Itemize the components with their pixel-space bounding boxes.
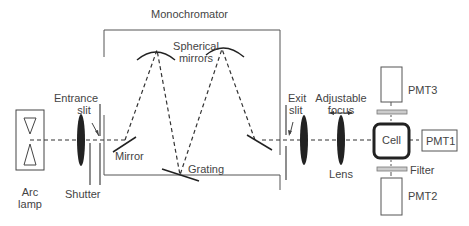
arc-lamp-label-1: Arc: [14, 186, 46, 198]
pmt2-box: [381, 178, 402, 215]
filter-top: [377, 110, 407, 114]
filter-bottom: [377, 167, 407, 171]
mirror-label: Mirror: [115, 150, 144, 162]
pmt3-box: [381, 67, 402, 102]
monochromator-label: Monochromator: [151, 8, 228, 20]
cell-label: Cell: [376, 134, 407, 146]
arc-lamp-label-2: lamp: [14, 198, 46, 210]
entrance-slit-label-2: slit: [64, 104, 104, 116]
exit-lens: [300, 115, 308, 165]
shutter-label: Shutter: [65, 188, 100, 200]
entrance-slit-label-1: Entrance: [48, 92, 104, 104]
adjustable-focus-label-1: Adjustable: [313, 92, 369, 104]
pmt2-label: PMT2: [408, 190, 437, 202]
arc-lamp-upper-electrode-icon: [24, 118, 36, 134]
spherical-mirrors-label-1: Spherical: [166, 40, 226, 52]
pmt1-label: PMT1: [426, 135, 455, 147]
adjustable-focus-label-2: focus: [313, 104, 369, 116]
input-lens: [77, 114, 85, 166]
arc-lamp-lower-electrode-icon: [24, 144, 36, 165]
filter-label: Filter: [410, 164, 434, 176]
exit-slit-label-1: Exit: [288, 92, 306, 104]
exit-mirror: [247, 135, 272, 150]
monochromator-beam-path: [125, 49, 255, 175]
grating-label: Grating: [188, 163, 224, 175]
exit-slit-label-2: slit: [289, 104, 302, 116]
adjustable-focus-lens: [337, 115, 345, 165]
spherical-mirrors-label-2: mirrors: [166, 52, 226, 64]
lens-label: Lens: [325, 168, 357, 180]
pmt3-label: PMT3: [408, 84, 437, 96]
